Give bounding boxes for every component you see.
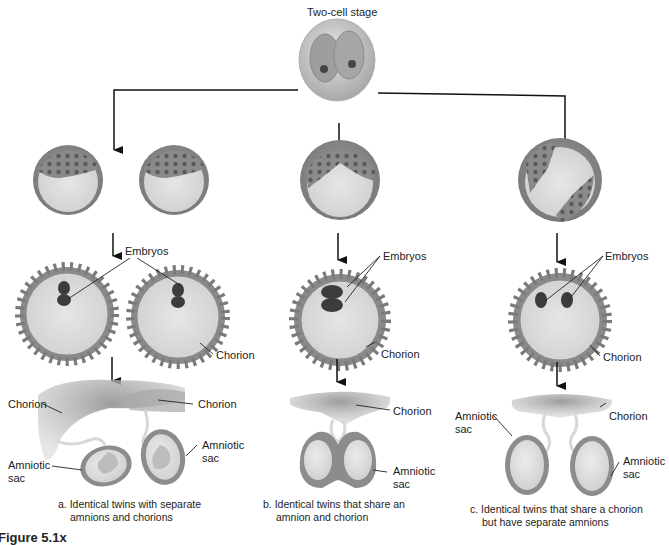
two-cell-zygote xyxy=(299,19,375,101)
label-amniotic-a-left-2: sac xyxy=(8,472,25,485)
blastocyst-a-left xyxy=(33,145,103,215)
label-amniotic-a-left-1: Amniotic xyxy=(8,459,50,472)
caption-b-line1: b. Identical twins that share an xyxy=(263,498,405,511)
umbilical-cords-c xyxy=(543,414,577,452)
label-amniotic-b-2: sac xyxy=(393,478,410,491)
shared-amniotic-sac-b xyxy=(300,432,376,488)
blastocyst-a-right xyxy=(139,145,209,215)
fetus-c-left xyxy=(505,435,549,495)
chorion-a-left xyxy=(20,267,114,361)
chorion-b xyxy=(294,274,386,366)
label-amniotic-a-right-2: sac xyxy=(202,452,219,465)
label-amniotic-c-right-1: Amniotic xyxy=(623,455,665,468)
label-amniotic-a-right-1: Amniotic xyxy=(202,439,244,452)
caption-a-line1: a. Identical twins with separate xyxy=(58,498,201,511)
label-chorion-c-bottom: Chorion xyxy=(609,410,648,423)
caption-c-line1: c. Identical twins that share a chorion xyxy=(470,503,643,516)
label-chorion-a-right: Chorion xyxy=(198,398,237,411)
fetus-a-left xyxy=(76,440,137,492)
label-chorion-a: Chorion xyxy=(216,349,255,362)
chorion-c xyxy=(513,273,607,367)
blastocyst-b xyxy=(300,140,380,220)
arrows-row2 xyxy=(113,233,557,262)
label-chorion-b-bottom: Chorion xyxy=(393,405,432,418)
figure-label: Figure 5.1x xyxy=(0,530,67,545)
label-chorion-a-left: Chorion xyxy=(8,398,47,411)
two-cell-stage-title: Two-cell stage xyxy=(307,6,377,19)
label-chorion-b: Chorion xyxy=(381,348,420,361)
label-amniotic-c-left-2: sac xyxy=(455,423,472,436)
label-embryos-b: Embryos xyxy=(383,250,426,263)
caption-b-line2: amnion and chorion xyxy=(276,511,368,524)
caption-a-line2: amnions and chorions xyxy=(70,511,173,524)
label-embryos-c: Embryos xyxy=(605,250,648,263)
placenta-c xyxy=(512,394,612,418)
label-amniotic-c-right-2: sac xyxy=(623,468,640,481)
caption-c-line2: but have separate amnions xyxy=(482,516,609,529)
blastocyst-c xyxy=(518,138,602,222)
label-amniotic-b-1: Amniotic xyxy=(393,465,435,478)
label-amniotic-c-left-1: Amniotic xyxy=(455,410,497,423)
label-embryos-a: Embryos xyxy=(125,245,168,258)
fetus-c-right xyxy=(570,436,614,496)
placenta-b xyxy=(290,392,390,425)
label-chorion-c: Chorion xyxy=(603,351,642,364)
